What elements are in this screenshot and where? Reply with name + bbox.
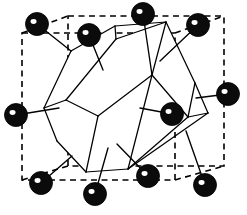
atom-bottom-right-in-highlight [142, 171, 148, 176]
atom-right-middle [217, 83, 240, 106]
crystal-structure-figure [0, 0, 247, 215]
atom-bottom-right [194, 174, 217, 197]
atom-left-middle-body [5, 104, 28, 127]
atom-centre-right-body [161, 103, 184, 126]
atom-bottom-centre-body [84, 183, 107, 206]
atom-top-right-body [187, 14, 210, 37]
atom-top-left-front-highlight [83, 30, 89, 35]
atom-bottom-centre [84, 183, 107, 206]
atom-bottom-left-body [30, 172, 53, 195]
atom-top-right-highlight [192, 20, 198, 25]
atom-bottom-right-highlight [199, 180, 205, 185]
atom-top-center [132, 3, 155, 26]
atom-bottom-left-highlight [35, 178, 41, 183]
atom-right-middle-body [217, 83, 240, 106]
atom-left-middle [5, 104, 28, 127]
atom-bottom-right-body [194, 174, 217, 197]
atom-right-middle-highlight [222, 89, 228, 94]
atom-bottom-right-in-body [137, 165, 160, 188]
atom-top-right [187, 14, 210, 37]
atom-top-left-front [78, 24, 101, 47]
atom-top-left-front-body [78, 24, 101, 47]
atom-top-left-back-highlight [31, 19, 37, 24]
atom-bottom-centre-highlight [89, 189, 95, 194]
crystal-structure-diagram [0, 0, 247, 215]
atom-centre-right-highlight [166, 109, 172, 114]
atom-centre-right [161, 103, 184, 126]
atom-bottom-right-in [137, 165, 160, 188]
atom-bottom-left [30, 172, 53, 195]
atom-top-center-body [132, 3, 155, 26]
atom-top-left-back [26, 13, 49, 36]
atom-left-middle-highlight [10, 110, 16, 115]
atom-top-left-back-body [26, 13, 49, 36]
atom-top-center-highlight [137, 9, 143, 14]
